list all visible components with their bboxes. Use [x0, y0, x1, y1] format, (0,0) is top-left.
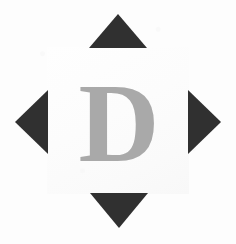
letter-glyph: D — [79, 67, 160, 179]
triangle-right-icon — [188, 90, 221, 154]
triangle-up-icon — [89, 14, 147, 48]
letter-card-scene: D — [0, 0, 236, 244]
triangle-left-icon — [15, 90, 48, 154]
triangle-down-icon — [90, 193, 148, 228]
glyph-container: D — [47, 47, 189, 194]
